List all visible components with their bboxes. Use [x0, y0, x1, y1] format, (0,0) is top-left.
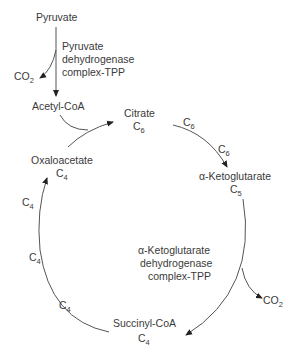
citrate-label: Citrate [124, 107, 155, 119]
succinylcoa-label: Succinyl-CoA [113, 317, 176, 329]
co2-top-label: CO2 [14, 70, 34, 85]
pdh-enzyme-line3: complex-TPP [62, 66, 125, 78]
c4-edge-label-2: C4 [29, 251, 41, 266]
co2-release-arrow-top [40, 50, 56, 78]
succinylcoa-carbons: C4 [138, 332, 150, 347]
pyruvate-label: Pyruvate [36, 11, 78, 23]
acetylcoa-entry-arrow [60, 115, 88, 130]
akgdh-enzyme-line3: complex-TPP [148, 270, 211, 282]
oxaloacetate-carbons: C4 [56, 167, 68, 182]
oxaloacetate-label: Oxaloacetate [31, 154, 93, 166]
akg-carbons: C5 [230, 183, 242, 198]
pdh-enzyme-line2: dehydrogenase [62, 53, 135, 65]
co2-right-label: CO2 [263, 294, 283, 309]
citric-acid-cycle-diagram: Pyruvate Pyruvate dehydrogenase complex-… [0, 0, 293, 358]
c4-edge-label-1: C4 [22, 196, 34, 211]
akgdh-enzyme-line2: dehydrogenase [140, 257, 213, 269]
akg-label: α-Ketoglutarate [199, 170, 271, 182]
acetylcoa-label: Acetyl-CoA [32, 100, 85, 112]
akgdh-enzyme-line1: α-Ketoglutarate [138, 244, 210, 256]
c4-edge-label-3: C4 [59, 299, 71, 314]
succinylcoa-to-oxaloacetate-arrow [39, 178, 109, 332]
citrate-carbons: C6 [133, 120, 145, 135]
oxaloacetate-to-citrate-arrow [68, 122, 113, 147]
pdh-enzyme-line1: Pyruvate [62, 40, 104, 52]
co2-release-arrow-right [242, 268, 262, 298]
